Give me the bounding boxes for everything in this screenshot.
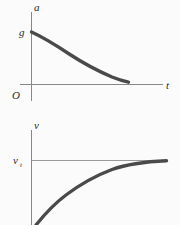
velocity-vs-time-chart: v v t [0,112,180,225]
y-axis-label-acceleration: a [34,1,40,13]
velocity-plot-svg: v v t [0,112,180,225]
velocity-growth-curve [36,161,167,225]
g-value-label: g [19,26,25,38]
acceleration-plot-svg: a g O t [0,0,180,112]
physics-graph-figure: a g O t v v t [0,0,180,225]
x-axis-label-time: t [166,79,170,91]
acceleration-decay-curve [32,32,129,82]
origin-label: O [12,89,20,101]
terminal-velocity-subscript: t [20,161,23,169]
acceleration-vs-time-chart: a g O t [0,0,180,112]
terminal-velocity-label: v [13,154,18,166]
y-axis-label-velocity: v [34,119,39,131]
